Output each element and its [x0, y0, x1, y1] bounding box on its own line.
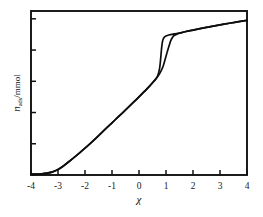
x-tick-label-0: -4 [27, 181, 35, 191]
x-tick-label-8: 4 [245, 181, 250, 191]
plot-frame [31, 11, 247, 175]
y-axis-title-text: nads/mmol [10, 74, 23, 112]
figure-container: -4-3-2-101234 χ nads/mmol [0, 0, 263, 217]
x-tick-label-6: 2 [191, 181, 196, 191]
x-tick-label-3: -1 [108, 181, 116, 191]
x-tick-label-4: 0 [137, 181, 142, 191]
x-tick-label-1: -3 [54, 181, 62, 191]
chart-svg: -4-3-2-101234 χ nads/mmol [0, 0, 263, 217]
x-axis-tick-labels: -4-3-2-101234 [27, 181, 250, 191]
x-tick-label-5: 1 [164, 181, 169, 191]
series-line-1 [31, 20, 247, 174]
x-axis-title: χ [136, 193, 143, 205]
data-series-group [31, 20, 247, 174]
x-tick-label-2: -2 [81, 181, 89, 191]
y-axis-title: nads/mmol [10, 74, 23, 112]
x-tick-label-7: 3 [218, 181, 223, 191]
y-axis-unit: /mmol [12, 74, 22, 98]
